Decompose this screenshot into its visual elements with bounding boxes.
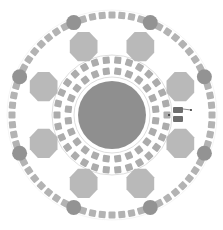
inner-seat bbox=[67, 94, 76, 103]
inner-seat bbox=[114, 166, 122, 174]
octagon-pod bbox=[167, 72, 195, 101]
inner-seat bbox=[102, 155, 110, 163]
outer-seat bbox=[206, 91, 214, 99]
inner-seat bbox=[158, 88, 167, 97]
inner-seat bbox=[102, 166, 110, 174]
octagon-pod bbox=[30, 129, 58, 158]
floor-plan-canvas bbox=[0, 0, 223, 230]
inner-seat bbox=[125, 163, 134, 172]
outer-seat bbox=[127, 209, 135, 217]
inner-seat bbox=[142, 137, 152, 147]
inner-seat bbox=[134, 145, 144, 155]
outer-seat bbox=[98, 211, 106, 219]
outer-seat bbox=[109, 212, 116, 219]
outer-seat bbox=[9, 101, 17, 109]
outer-seat bbox=[206, 130, 214, 138]
inner-seat bbox=[162, 99, 170, 107]
central-circle bbox=[78, 81, 146, 149]
column-circle bbox=[143, 200, 158, 215]
inner-seat bbox=[142, 83, 152, 93]
inner-seat bbox=[64, 117, 72, 125]
inner-seat bbox=[114, 56, 122, 64]
octagon-pod bbox=[127, 32, 155, 61]
inner-seat bbox=[91, 163, 100, 172]
object-block-bottom bbox=[173, 116, 183, 122]
inner-seat bbox=[54, 99, 62, 107]
outer-seat bbox=[10, 130, 18, 138]
inner-seat bbox=[125, 58, 134, 67]
inner-seat bbox=[54, 112, 61, 119]
outer-seat bbox=[88, 209, 96, 217]
column-circle bbox=[143, 15, 158, 30]
column-circle bbox=[12, 146, 27, 161]
inner-seat bbox=[124, 151, 133, 160]
object-dot bbox=[190, 109, 192, 111]
outer-seat bbox=[208, 121, 216, 129]
inner-seat bbox=[91, 58, 100, 67]
inner-seat bbox=[91, 70, 100, 79]
inner-seat bbox=[152, 105, 160, 113]
inner-seat bbox=[148, 127, 157, 136]
inner-seat bbox=[80, 75, 90, 85]
outer-seat bbox=[98, 12, 106, 20]
column-circle bbox=[197, 69, 212, 84]
inner-seat bbox=[134, 75, 144, 85]
object-block-top bbox=[173, 107, 183, 113]
inner-seat bbox=[114, 155, 122, 163]
object-line bbox=[183, 109, 191, 110]
inner-seat bbox=[124, 70, 133, 79]
octagon-pod bbox=[30, 72, 58, 101]
inner-seat bbox=[135, 158, 145, 168]
inner-seat bbox=[162, 122, 170, 130]
inner-seat bbox=[67, 127, 76, 136]
inner-seat bbox=[102, 67, 110, 75]
inner-seat bbox=[148, 94, 157, 103]
outer-seat bbox=[118, 211, 126, 219]
octagon-pod bbox=[70, 169, 98, 198]
floor-plan-diagram bbox=[0, 0, 223, 230]
inner-seat bbox=[114, 67, 122, 75]
object-dot bbox=[168, 114, 170, 116]
inner-seat bbox=[152, 117, 160, 125]
inner-seat bbox=[80, 158, 90, 168]
inner-seat bbox=[72, 137, 82, 147]
inner-seat bbox=[64, 105, 72, 113]
column-circle bbox=[12, 69, 27, 84]
outer-seat bbox=[88, 13, 96, 21]
octagon-pod bbox=[167, 129, 195, 158]
inner-seat bbox=[57, 133, 66, 142]
inner-seat bbox=[91, 151, 100, 160]
outer-seat bbox=[127, 13, 135, 21]
inner-seat bbox=[158, 133, 167, 142]
outer-seat bbox=[109, 12, 116, 19]
column-circle bbox=[197, 146, 212, 161]
inner-seat bbox=[102, 56, 110, 64]
outer-seat bbox=[9, 121, 17, 129]
octagon-pod bbox=[70, 32, 98, 61]
outer-seat bbox=[208, 101, 216, 109]
inner-seat bbox=[80, 145, 90, 155]
inner-seat bbox=[54, 122, 62, 130]
column-circle bbox=[66, 15, 81, 30]
inner-seat bbox=[57, 88, 66, 97]
outer-seat bbox=[118, 12, 126, 20]
outer-seat bbox=[10, 91, 18, 99]
outer-seat bbox=[209, 112, 216, 119]
inner-seat bbox=[135, 63, 145, 73]
column-circle bbox=[66, 200, 81, 215]
inner-seat bbox=[80, 63, 90, 73]
octagon-pod bbox=[127, 169, 155, 198]
outer-seat bbox=[9, 112, 16, 119]
inner-seat bbox=[72, 83, 82, 93]
